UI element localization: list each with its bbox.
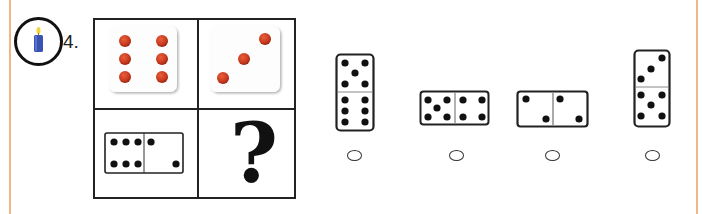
die-three <box>206 24 291 98</box>
option-a-radio[interactable] <box>347 150 362 161</box>
domino-six-two <box>104 132 186 176</box>
option-c-domino <box>516 90 592 130</box>
question-number: 4. <box>63 31 79 53</box>
candle-icon <box>14 17 63 66</box>
unknown-cell-question-mark: ? <box>230 108 270 198</box>
option-b-domino <box>419 90 493 128</box>
page-edge-left <box>9 0 11 214</box>
die-six <box>107 24 187 98</box>
option-a-domino <box>335 53 377 133</box>
option-b-radio[interactable] <box>449 150 464 161</box>
option-d-domino <box>633 49 673 131</box>
option-d-radio[interactable] <box>645 150 660 161</box>
question-badge <box>14 17 63 66</box>
option-c-radio[interactable] <box>545 150 560 161</box>
page-edge-right <box>696 0 698 214</box>
